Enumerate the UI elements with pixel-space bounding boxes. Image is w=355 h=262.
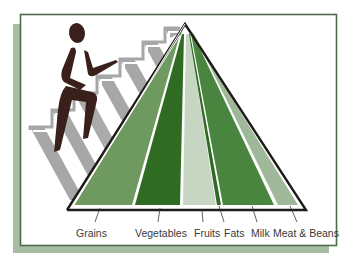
label-grains: Grains (76, 227, 107, 239)
label-milk: Milk (251, 227, 270, 239)
food-pyramid-diagram: Grains Vegetables Fruits Fats Milk Meat … (0, 0, 355, 262)
label-fruits: Fruits (194, 227, 220, 239)
label-meat-beans: Meat & Beans (273, 227, 339, 239)
label-vegetables: Vegetables (135, 227, 187, 239)
label-fats: Fats (224, 227, 244, 239)
